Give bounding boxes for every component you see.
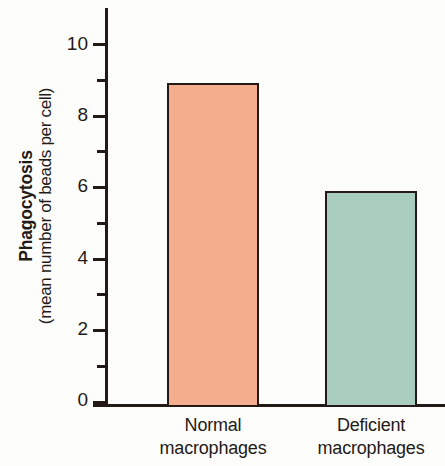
x-axis-label-deficient-macrophages: Deficient macrophages xyxy=(308,414,434,460)
bar-chart-figure: Phagocytosis (mean number of beads per c… xyxy=(0,0,445,466)
bar-normal-macrophages[interactable] xyxy=(167,83,259,407)
x-axis-label-normal-macrophages: Normal macrophages xyxy=(150,414,276,460)
plot-area xyxy=(0,0,445,466)
x-label-line2: macrophages xyxy=(150,437,276,460)
x-label-line2: macrophages xyxy=(308,437,434,460)
bar-deficient-macrophages[interactable] xyxy=(325,191,417,407)
x-label-line1: Normal xyxy=(150,414,276,437)
x-label-line1: Deficient xyxy=(308,414,434,437)
